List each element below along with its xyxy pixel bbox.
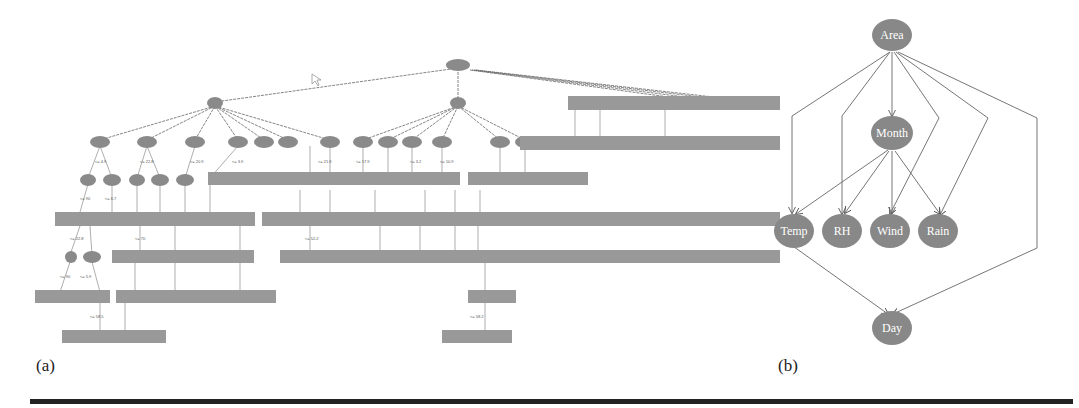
bn-node-area: Area bbox=[872, 19, 912, 51]
svg-text:RH: RH bbox=[834, 224, 851, 238]
caption-b: (b) bbox=[778, 356, 798, 376]
bn-node-month: Month bbox=[871, 116, 913, 150]
bn-node-rh: RH bbox=[822, 214, 862, 248]
bn-node-day: Day bbox=[872, 311, 912, 345]
caption-a: (a) bbox=[36, 356, 55, 376]
svg-text:Rain: Rain bbox=[927, 224, 950, 238]
svg-text:Day: Day bbox=[882, 321, 902, 335]
bottom-rule bbox=[30, 399, 1073, 404]
svg-text:Temp: Temp bbox=[780, 224, 807, 238]
bn-node-rain: Rain bbox=[918, 214, 958, 248]
bn-node-temp: Temp bbox=[774, 214, 814, 248]
svg-text:Month: Month bbox=[876, 126, 908, 140]
svg-text:Area: Area bbox=[880, 28, 904, 42]
svg-text:Wind: Wind bbox=[877, 224, 903, 238]
bayesian-network-panel: Area Month Temp RH Wind Rain Day bbox=[0, 0, 1079, 408]
bn-node-wind: Wind bbox=[870, 214, 910, 248]
